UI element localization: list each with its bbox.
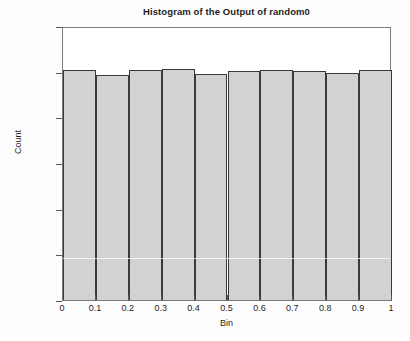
histogram-bar: [228, 71, 261, 300]
x-axis-label: Bin: [62, 318, 391, 328]
histogram-bar: [63, 70, 96, 300]
y-axis-tick: [56, 301, 62, 302]
plot-area: [62, 27, 391, 301]
x-axis-tick: [391, 295, 392, 301]
chart-title: Histogram of the Output of random0: [62, 6, 391, 17]
x-axis-tick: [358, 295, 359, 301]
y-axis-tick: [56, 164, 62, 165]
y-axis-tick: [56, 73, 62, 74]
x-axis-tick: [325, 295, 326, 301]
histogram-bar: [326, 73, 359, 300]
y-axis-tick: [56, 210, 62, 211]
x-axis-tick-label: 1: [371, 303, 410, 313]
histogram-figure: Histogram of the Output of random0 Count…: [0, 0, 410, 341]
histogram-bar: [162, 69, 195, 300]
x-axis-tick: [292, 295, 293, 301]
x-axis-tick: [95, 295, 96, 301]
y-axis-tick: [56, 118, 62, 119]
x-axis-tick: [194, 295, 195, 301]
x-axis-tick: [227, 295, 228, 301]
histogram-bar: [293, 71, 326, 300]
y-axis-tick: [56, 27, 62, 28]
histogram-bar: [260, 70, 293, 300]
x-axis-tick: [161, 295, 162, 301]
bars-container: [63, 28, 390, 300]
x-axis-tick: [259, 295, 260, 301]
x-axis-tick: [128, 295, 129, 301]
y-axis-tick: [56, 255, 62, 256]
histogram-bar: [359, 70, 392, 300]
histogram-bar: [96, 75, 129, 300]
histogram-bar: [129, 70, 162, 300]
histogram-bar: [195, 74, 228, 301]
y-axis-label: Count: [13, 112, 23, 172]
